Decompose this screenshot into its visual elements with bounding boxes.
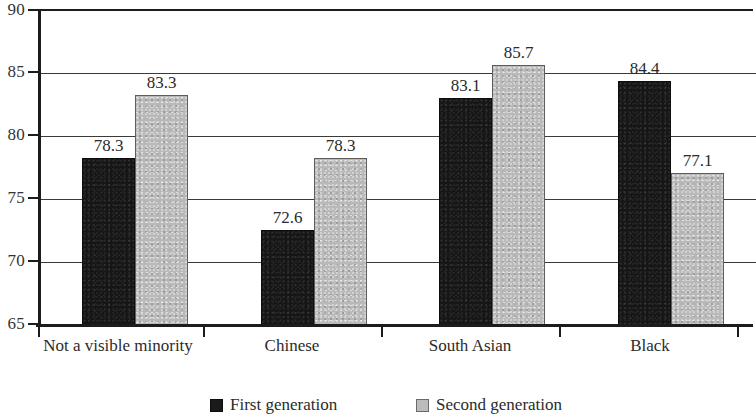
- legend: First generation Second generation: [0, 394, 753, 420]
- value-label-second-generation-south-asian: 85.7: [489, 44, 548, 61]
- x-axis-category-label-chinese: Chinese: [212, 336, 372, 356]
- legend-label-first-generation: First generation: [230, 396, 337, 414]
- x-axis-line: [36, 324, 753, 327]
- bar-first-generation-south-asian: [439, 98, 492, 327]
- y-tick-label-90: 90: [0, 1, 25, 18]
- value-label-second-generation-black: 77.1: [668, 152, 727, 169]
- value-label-first-generation-black: 84.4: [615, 60, 674, 77]
- y-tick-label-85: 85: [0, 63, 25, 80]
- bar-second-generation-chinese: [314, 158, 367, 327]
- y-tick-label-80: 80: [0, 126, 25, 143]
- legend-swatch-first-generation-icon: [210, 399, 223, 412]
- y-tick-mark-75: [28, 197, 39, 199]
- x-axis-category-label-not-a-visible-minority: Not a visible minority: [28, 336, 208, 356]
- y-tick-label-75: 75: [0, 189, 25, 206]
- value-label-first-generation-chinese: 72.6: [258, 209, 317, 226]
- bar-second-generation-not-a-visible-minority: [135, 95, 188, 327]
- y-tick-mark-80: [28, 134, 39, 136]
- y-tick-mark-90: [28, 9, 39, 11]
- bar-second-generation-black: [671, 173, 724, 327]
- value-label-first-generation-not-a-visible-minority: 78.3: [79, 137, 138, 154]
- y-tick-label-65: 65: [0, 315, 25, 332]
- value-label-second-generation-not-a-visible-minority: 83.3: [132, 74, 191, 91]
- x-tick-mark-2: [381, 326, 383, 337]
- bar-first-generation-black: [618, 81, 671, 327]
- legend-swatch-second-generation-icon: [416, 399, 429, 412]
- y-tick-mark-70: [28, 260, 39, 262]
- plot-area: 78.3 83.3 72.6 78.3 83.1 85.7 84.4 77.1: [38, 9, 753, 325]
- value-label-second-generation-chinese: 78.3: [311, 137, 370, 154]
- bar-second-generation-south-asian: [492, 65, 545, 327]
- x-tick-mark-4: [737, 326, 739, 337]
- x-tick-mark-3: [559, 326, 561, 337]
- y-tick-label-70: 70: [0, 252, 25, 269]
- legend-item-second-generation: Second generation: [416, 396, 562, 414]
- legend-label-second-generation: Second generation: [436, 396, 562, 414]
- y-tick-mark-65: [28, 323, 39, 325]
- y-tick-mark-85: [28, 71, 39, 73]
- x-axis-category-label-black: Black: [570, 336, 730, 356]
- bar-first-generation-chinese: [261, 230, 314, 327]
- x-axis-category-label-south-asian: South Asian: [390, 336, 550, 356]
- legend-item-first-generation: First generation: [210, 396, 337, 414]
- bar-first-generation-not-a-visible-minority: [82, 158, 135, 327]
- value-label-first-generation-south-asian: 83.1: [436, 77, 495, 94]
